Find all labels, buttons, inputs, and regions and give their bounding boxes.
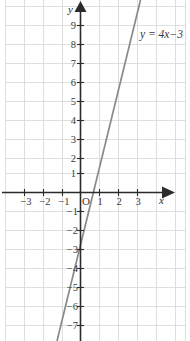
grid-lines: [6, 0, 186, 341]
coordinate-graph-figure: −3 −2 −1 1 2 3 9 8 7 6 5 4 3 2 1 −1 −2 −…: [0, 0, 190, 341]
y-tick-label-4: 4: [71, 115, 77, 126]
equation-annotation: y = 4x−3: [139, 28, 183, 41]
y-tick-label--5: −5: [67, 282, 78, 293]
origin-label: O: [82, 195, 90, 207]
y-tick-label--4: −4: [67, 263, 79, 274]
x-axis-label: x: [158, 194, 164, 206]
x-axis-arrowhead: [162, 187, 175, 199]
graph-canvas: −3 −2 −1 1 2 3 9 8 7 6 5 4 3 2 1 −1 −2 −…: [0, 0, 190, 341]
y-tick-label-9: 9: [71, 20, 76, 31]
x-tick-label-1: 1: [97, 196, 102, 207]
x-tick-label--2: −2: [39, 196, 50, 207]
y-axis-tick-labels: 9 8 7 6 5 4 3 2 1 −1 −2 −3 −4 −5 −6 −7: [67, 20, 79, 331]
y-tick-label-1: 1: [71, 168, 76, 179]
y-tick-label--3: −3: [67, 244, 78, 255]
y-tick-label--2: −2: [67, 225, 78, 236]
y-tick-label-5: 5: [71, 96, 76, 107]
y-tick-label--7: −7: [67, 320, 78, 331]
grid-horizontal-lines: [6, 7, 186, 326]
y-tick-label--1: −1: [67, 206, 78, 217]
y-tick-label-7: 7: [71, 58, 76, 69]
y-tick-label-3: 3: [71, 134, 76, 145]
x-tick-label-3: 3: [135, 196, 140, 207]
y-tick-label-6: 6: [71, 77, 76, 88]
x-tick-label--3: −3: [20, 196, 31, 207]
grid-vertical-lines: [6, 0, 186, 341]
y-axis-label: y: [67, 3, 73, 15]
y-tick-label-8: 8: [71, 39, 76, 50]
y-tick-label--6: −6: [67, 301, 78, 312]
y-tick-label-2: 2: [71, 153, 76, 164]
x-tick-label-2: 2: [116, 196, 121, 207]
